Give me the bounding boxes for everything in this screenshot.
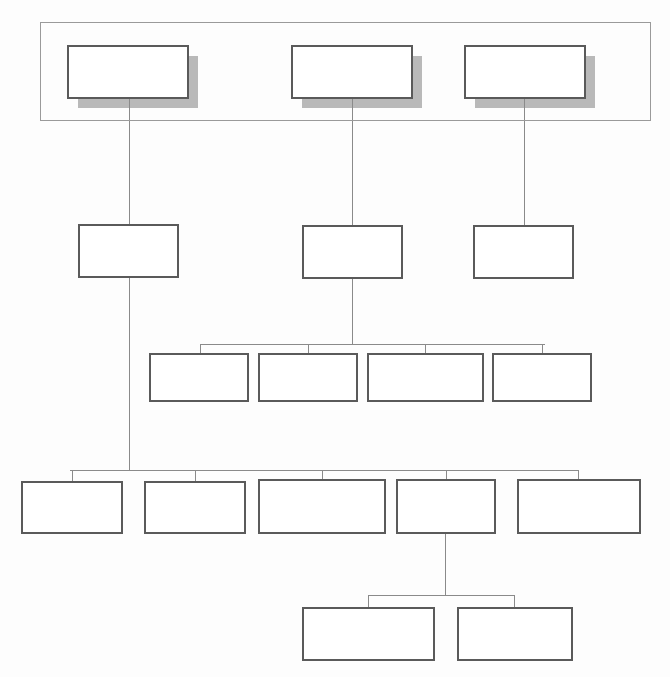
node-box[interactable] [259,354,357,401]
node-n4-4[interactable] [397,480,495,533]
node-box[interactable] [150,354,248,401]
node-box[interactable] [292,46,412,98]
node-n5-1[interactable] [303,608,434,660]
org-chart-svg [0,0,670,677]
node-n4-2[interactable] [145,482,245,533]
node-n2-3[interactable] [474,226,573,278]
node-box-layer [22,46,640,660]
node-n4-5[interactable] [518,480,640,533]
node-n2-2[interactable] [303,226,402,278]
node-box[interactable] [303,608,434,660]
node-n3-1[interactable] [150,354,248,401]
node-n1-3[interactable] [465,46,585,98]
node-n4-3[interactable] [259,480,385,533]
node-n3-3[interactable] [368,354,483,401]
node-box[interactable] [303,226,402,278]
node-n5-2[interactable] [458,608,572,660]
node-box[interactable] [68,46,188,98]
node-n4-1[interactable] [22,482,122,533]
node-box[interactable] [397,480,495,533]
node-box[interactable] [474,226,573,278]
node-box[interactable] [493,354,591,401]
node-n1-2[interactable] [292,46,412,98]
node-box[interactable] [465,46,585,98]
node-n3-4[interactable] [493,354,591,401]
node-n1-1[interactable] [68,46,188,98]
node-n2-1[interactable] [79,225,178,277]
node-box[interactable] [259,480,385,533]
org-chart-canvas [0,0,670,677]
node-box[interactable] [22,482,122,533]
node-box[interactable] [458,608,572,660]
node-n3-2[interactable] [259,354,357,401]
node-box[interactable] [518,480,640,533]
node-box[interactable] [145,482,245,533]
node-box[interactable] [368,354,483,401]
node-box[interactable] [79,225,178,277]
